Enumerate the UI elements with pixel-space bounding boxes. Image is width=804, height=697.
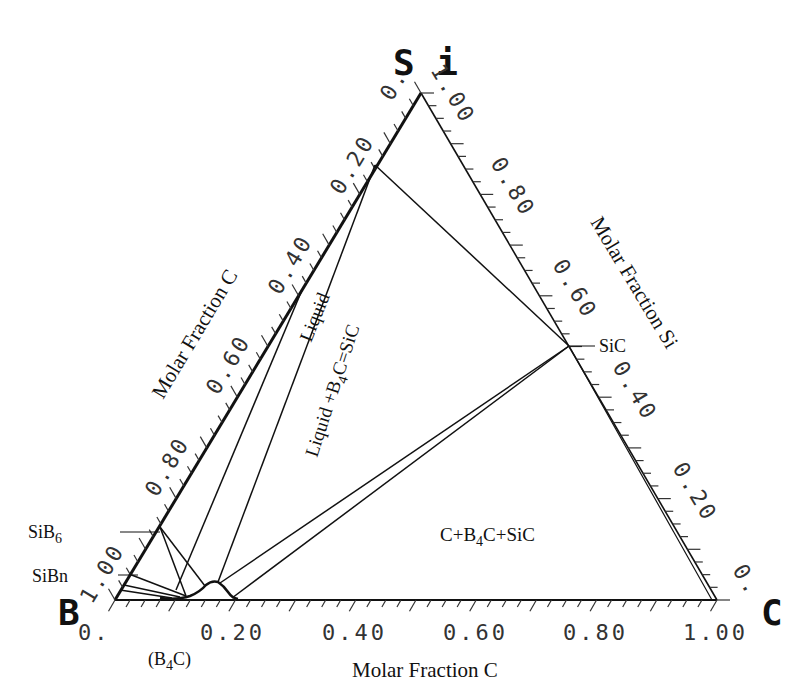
tick-mark [226, 403, 230, 410]
tick-mark [292, 284, 299, 295]
tick-mark [384, 132, 391, 143]
tick-mark [272, 327, 276, 334]
tick-mark [126, 600, 130, 607]
tick-mark [256, 352, 260, 359]
compound-label-sib6: SiB6 [28, 522, 62, 546]
tick-mark [109, 589, 116, 600]
tie-line-sib6-1 [160, 527, 186, 596]
tie-line-sic-b4c-2 [232, 346, 569, 598]
left-tick-060: 0.60 [201, 330, 256, 399]
bottom-tick-060: 0.60 [443, 620, 508, 645]
tick-mark [337, 600, 341, 607]
tick-mark [470, 600, 477, 611]
left-tick-040: 0.40 [263, 230, 318, 299]
tick-mark [578, 600, 582, 607]
tick-mark [563, 600, 567, 607]
tick-mark [502, 600, 506, 607]
region-label-c-b4c-sic: C+B4C+SiC [440, 524, 535, 549]
tick-mark [427, 600, 431, 607]
tick-mark [547, 600, 551, 607]
tick-mark [307, 600, 311, 607]
tick-mark [711, 600, 718, 611]
bottom-axis-ticks [109, 600, 718, 611]
tick-mark [216, 600, 220, 607]
tick-mark [668, 600, 672, 607]
tick-mark [382, 600, 386, 607]
right-tick-040: 0.40 [608, 357, 663, 426]
bottom-tick-100: 1.00 [683, 620, 748, 645]
tick-mark [119, 580, 123, 587]
bottom-axis-title: Molar Fraction C [352, 658, 498, 682]
tick-mark [229, 600, 236, 611]
bottom-tick-040: 0.40 [322, 620, 387, 645]
tick-mark [241, 378, 245, 385]
vertex-label-c: C [761, 592, 783, 633]
tick-mark [277, 600, 281, 607]
tick-mark [195, 454, 199, 461]
tick-mark [415, 82, 422, 93]
tick-mark [109, 600, 116, 611]
compound-label-sic: SiC [599, 336, 626, 356]
tick-mark [638, 600, 642, 607]
tick-mark [349, 600, 356, 611]
tick-mark [279, 314, 283, 321]
tick-mark [218, 416, 222, 423]
bottom-tick-020: 0.20 [200, 620, 265, 645]
tick-mark [165, 504, 169, 511]
tick-mark [169, 600, 176, 611]
bottom-axis-tick-labels: 0. 0.20 0.40 0.60 0.80 1.00 [78, 620, 748, 645]
tick-mark [323, 234, 330, 245]
tick-mark [134, 555, 138, 562]
tick-mark [200, 437, 207, 448]
tick-mark [517, 600, 521, 607]
right-tick-020: 0.20 [668, 458, 723, 527]
tick-mark [249, 365, 253, 372]
tick-mark [363, 175, 367, 182]
tick-mark [186, 600, 190, 607]
tick-mark [289, 600, 296, 611]
tick-mark [302, 276, 306, 283]
left-axis-tick-labels: 1.00 0.80 0.60 0.40 0.20 0. [75, 64, 413, 608]
left-tick-100: 1.00 [75, 539, 130, 608]
vertex-label-b: B [58, 592, 80, 633]
tick-mark [231, 386, 238, 397]
tick-mark [402, 111, 406, 118]
tick-mark [188, 466, 192, 473]
tick-mark [397, 600, 401, 607]
tick-mark [262, 335, 269, 346]
right-axis-tick-labels: 1.00 0.80 0.60 0.40 0.20 0. [426, 60, 766, 601]
tick-mark [310, 263, 314, 270]
left-tick-020: 0.20 [325, 130, 380, 199]
tick-mark [262, 600, 266, 607]
tick-mark [442, 600, 446, 607]
tick-mark [409, 99, 413, 106]
tick-mark [287, 302, 291, 309]
ternary-phase-diagram: S i B C 0. 0.20 0.40 0.60 0.80 1.00 1.00… [0, 0, 804, 697]
right-tick-080: 0.80 [486, 153, 541, 222]
tick-mark [318, 251, 322, 258]
tick-mark [170, 487, 177, 498]
tick-mark [650, 600, 657, 611]
tick-mark [457, 600, 461, 607]
tick-mark [322, 600, 326, 607]
right-tick-060: 0.60 [548, 255, 603, 324]
tick-mark [410, 600, 417, 611]
tick-mark [394, 124, 398, 131]
tick-mark [698, 600, 702, 607]
right-axis-title: Molar Fraction Si [586, 212, 684, 352]
tick-mark [149, 530, 153, 537]
triangle-frame [115, 93, 717, 600]
tick-mark [608, 600, 612, 607]
bottom-tick-080: 0.80 [563, 620, 628, 645]
tick-mark [623, 600, 627, 607]
tick-mark [201, 600, 205, 607]
tick-mark [246, 600, 250, 607]
tie-line-sic-b4c-1 [220, 346, 569, 583]
tick-mark [341, 213, 345, 220]
tick-mark [333, 225, 337, 232]
tick-mark [139, 538, 146, 549]
left-tick-080: 0.80 [140, 432, 195, 501]
tick-mark [487, 600, 491, 607]
tick-mark [156, 600, 160, 607]
right-tick-100: 1.00 [426, 60, 481, 129]
